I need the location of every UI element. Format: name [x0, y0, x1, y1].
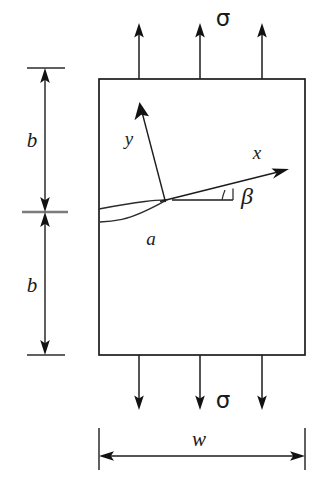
crack-plate-diagram: σ σ b b w a x y β [0, 0, 322, 493]
axis-y-arrow [135, 102, 166, 202]
beta-angle-label: β [240, 183, 253, 209]
crack-tip-axes-group [135, 102, 290, 202]
crack-length-label: a [146, 228, 156, 249]
width-label: w [192, 427, 206, 451]
top-load-arrow-2 [195, 23, 205, 79]
axis-x-arrow [160, 169, 289, 202]
height-dimension-lower [40, 212, 50, 355]
bottom-load-arrow-group [134, 355, 267, 410]
axis-y-label: y [123, 128, 134, 149]
axis-x-label: x [252, 142, 262, 163]
top-load-arrow-group [134, 23, 267, 79]
height-label-lower: b [27, 273, 38, 297]
height-label-upper: b [27, 128, 38, 152]
bottom-load-arrow-3 [257, 355, 267, 410]
top-load-arrow-1 [134, 23, 144, 79]
crack-group [99, 200, 168, 222]
bottom-load-arrow-2 [195, 355, 205, 410]
height-dimension-group [22, 68, 68, 355]
stress-label-top: σ [216, 5, 231, 31]
stress-label-bottom: σ [216, 387, 231, 413]
height-dimension-upper [40, 68, 50, 212]
bottom-load-arrow-1 [134, 355, 144, 410]
figure-canvas: σ σ b b w a x y β [0, 0, 322, 493]
top-load-arrow-3 [257, 23, 267, 79]
beta-angle-arc-curve [222, 190, 225, 200]
